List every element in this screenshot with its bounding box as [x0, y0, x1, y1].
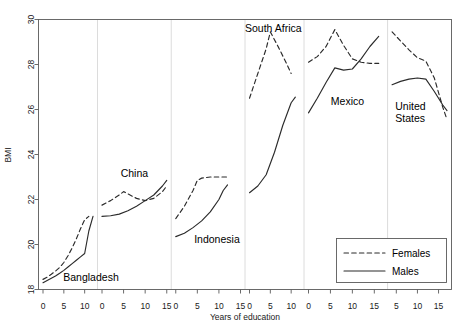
x-tick-label: 5 [268, 301, 273, 311]
y-axis-title: BMI [3, 147, 13, 162]
x-tick-label: 5 [61, 301, 66, 311]
x-tick-label: 10 [286, 301, 296, 311]
x-tick-label: 0 [100, 301, 105, 311]
chart-canvas: 18202224262830 0510051015051015051005101… [0, 0, 469, 329]
x-tick-label: 10 [214, 301, 224, 311]
y-tick-label: 26 [26, 105, 36, 115]
x-tick-label: 15 [162, 301, 172, 311]
panel-label-mexico: Mexico [331, 95, 364, 107]
legend-label-females: Females [392, 248, 430, 259]
y-tick-label: 20 [26, 240, 36, 250]
x-tick-label: 5 [195, 301, 200, 311]
x-tick-label: 10 [80, 301, 90, 311]
y-tick-label: 22 [26, 195, 36, 205]
x-tick-label: 0 [41, 301, 46, 311]
x-tick-label: 5 [328, 301, 333, 311]
x-axis-title: Years of education [210, 312, 280, 322]
panel-label-bangladesh: Bangladesh [63, 271, 119, 283]
panel-label-united-states: UnitedStates [395, 100, 426, 124]
bmi-education-chart: 18202224262830 0510051015051015051005101… [0, 0, 469, 329]
x-tick-label: 5 [394, 301, 399, 311]
x-tick-label: 15 [236, 301, 246, 311]
y-tick-label: 30 [26, 15, 36, 25]
panel-label-indonesia: Indonesia [194, 233, 240, 245]
panel-label-south-africa: South Africa [245, 22, 302, 34]
x-tick-label: 0 [306, 301, 311, 311]
panel-label-china: China [121, 167, 149, 179]
x-tick-label: 0 [247, 301, 252, 311]
x-tick-label: 15 [434, 301, 444, 311]
x-tick-label: 0 [173, 301, 178, 311]
x-tick-label: 5 [121, 301, 126, 311]
x-tick-label: 15 [370, 301, 380, 311]
x-tick-label: 10 [348, 301, 358, 311]
x-tick-label: 10 [413, 301, 423, 311]
legend-label-males: Males [392, 266, 419, 277]
y-tick-label: 18 [26, 285, 36, 295]
x-tick-label: 10 [140, 301, 150, 311]
y-tick-label: 24 [26, 150, 36, 160]
legend: Females Males [337, 239, 447, 283]
y-tick-label: 28 [26, 60, 36, 70]
